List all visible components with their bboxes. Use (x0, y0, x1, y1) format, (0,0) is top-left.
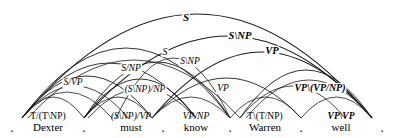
lexical-entry-dexter: T/(T\NP)Dexter (30, 112, 65, 134)
lexical-word: Warren (247, 122, 282, 134)
lexical-entry-well: VP\VPwell (328, 112, 355, 134)
arc-label-arc-vp-upper: VP (264, 46, 279, 57)
lexical-entry-know: VP/NPknow (183, 112, 209, 134)
lexical-word: well (328, 122, 355, 134)
boundary-dot-3 (229, 130, 231, 132)
arc-label-arc-vp-vp-np: VP\(VP/NP) (293, 83, 346, 93)
arc-label-arc-s-np-mid: S\NP (179, 57, 201, 67)
arc-label-arc-snp-np: (S\NP)/NP (124, 85, 167, 95)
lexical-word: Dexter (30, 122, 65, 134)
arc-label-arc-s-np-slash: S/NP (120, 64, 142, 74)
lexical-word: must (111, 122, 151, 134)
boundary-dot-2 (162, 130, 164, 132)
arc-label-arc-s-np: S\NP (228, 31, 253, 42)
arc-label-arc-vp-lower: VP (216, 84, 230, 94)
lexical-entry-warren: T\(T/NP)Warren (247, 112, 282, 134)
arc-label-arc-s-vp: S/VP (63, 78, 84, 88)
lexical-word: know (183, 122, 209, 134)
arc-label-arc-s-mid: S (162, 47, 169, 57)
boundary-dot-0 (11, 130, 13, 132)
arc-label-arc-s-top: S (182, 12, 190, 23)
boundary-dot-4 (300, 130, 302, 132)
ccg-derivation-diagram: SS\NPVPSS\NPS/NPS/VP(S\NP)/NPVPVP\(VP/NP… (0, 0, 394, 138)
lexical-entry-must: (S\NP)/VPmust (111, 112, 151, 134)
boundary-dot-5 (381, 130, 383, 132)
boundary-dot-1 (83, 130, 85, 132)
